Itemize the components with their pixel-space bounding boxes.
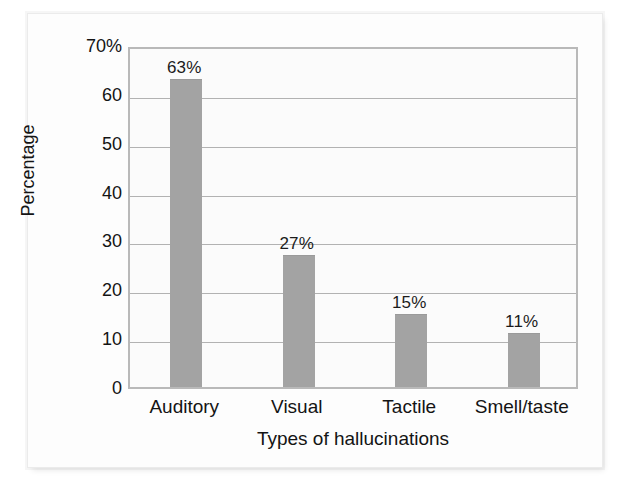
bar-series: [130, 49, 576, 387]
bar-value-label: 15%: [369, 293, 449, 313]
figure-root: Percentage 010203040506070% 63%27%15%11%…: [0, 0, 627, 498]
bar: [395, 314, 427, 387]
plot-area: [128, 47, 578, 389]
y-axis-tick-label: 60: [102, 86, 122, 104]
y-axis-tick-label: 40: [102, 184, 122, 202]
y-axis-tick-label: 70%: [86, 37, 122, 55]
x-axis-title: Types of hallucinations: [128, 428, 578, 450]
bar-value-label: 63%: [144, 58, 224, 78]
bar: [170, 79, 202, 387]
y-axis-tick-label: 10: [102, 330, 122, 348]
bar: [508, 333, 540, 387]
y-axis-title: Percentage: [18, 111, 39, 231]
x-axis-tick-label: Smell/taste: [452, 396, 592, 418]
y-axis-tick-label: 20: [102, 281, 122, 299]
y-axis-tick-label: 50: [102, 135, 122, 153]
y-axis-tick-label: 30: [102, 232, 122, 250]
bar-value-label: 27%: [257, 234, 337, 254]
bar: [283, 255, 315, 387]
bar-value-label: 11%: [482, 312, 562, 332]
y-axis-tick-labels: 010203040506070%: [52, 0, 122, 498]
y-axis-tick-label: 0: [112, 379, 122, 397]
